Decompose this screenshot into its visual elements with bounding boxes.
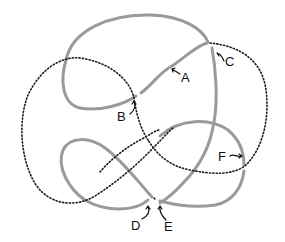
label-c: C [217, 53, 234, 69]
label-f: F [218, 149, 242, 164]
right-dotted-loop [148, 43, 267, 173]
label-a-pointer [172, 68, 180, 74]
left-upper-loop-strand [63, 60, 136, 109]
label-c-text: C [225, 54, 234, 69]
label-b-text: B [117, 109, 126, 124]
label-d-text: D [131, 218, 140, 233]
label-e: E [158, 206, 173, 234]
label-d: D [131, 206, 150, 233]
label-f-text: F [218, 149, 226, 164]
label-a: A [172, 68, 190, 85]
label-c-pointer [217, 53, 224, 61]
label-e-text: E [164, 219, 173, 234]
right-lower-strand [160, 171, 244, 206]
knot-diagram: A B C D E F [0, 0, 285, 242]
label-b-pointer [130, 101, 136, 114]
lower-left-loop-strand [61, 140, 152, 209]
label-e-pointer [158, 206, 166, 220]
de-dotted-point [154, 198, 156, 200]
label-a-text: A [181, 70, 190, 85]
label-d-pointer [142, 206, 150, 219]
middle-dotted-strand [22, 58, 173, 203]
label-f-pointer [230, 154, 242, 158]
